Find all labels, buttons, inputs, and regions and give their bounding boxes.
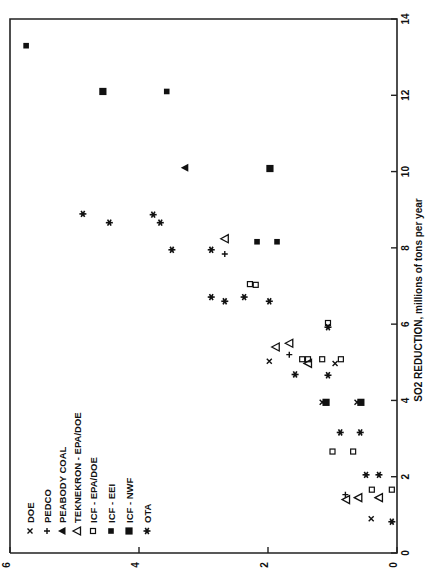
open-square-marker-icon bbox=[247, 282, 252, 287]
x-marker-icon bbox=[333, 361, 338, 366]
open-triangle-marker-icon bbox=[221, 235, 229, 243]
small-filled-square-marker-icon bbox=[164, 89, 170, 95]
y-tick-label: 6 bbox=[1, 562, 12, 568]
legend-label: DOE bbox=[25, 502, 36, 523]
x-tick-label: 6 bbox=[400, 321, 411, 327]
x-tick-label: 2 bbox=[400, 473, 411, 479]
legend-item: ICF - NWF bbox=[124, 477, 135, 534]
asterisk-marker-icon bbox=[375, 472, 382, 478]
filled-triangle-marker-icon bbox=[181, 164, 189, 172]
open-square-marker-icon bbox=[320, 357, 325, 362]
x-tick-label: 0 bbox=[400, 550, 411, 556]
asterisk-marker-icon bbox=[144, 528, 151, 534]
x-marker-icon bbox=[267, 359, 272, 364]
y-tick-label: 2 bbox=[259, 562, 270, 568]
open-square-marker-icon bbox=[389, 487, 394, 492]
+-marker-icon bbox=[222, 251, 228, 257]
x-marker-icon bbox=[369, 516, 374, 521]
small-filled-square-marker-icon bbox=[254, 239, 260, 245]
+-marker-icon bbox=[44, 528, 50, 534]
asterisk-marker-icon bbox=[79, 211, 86, 217]
legend-label: ICF - NWF bbox=[124, 477, 135, 523]
open-square-marker-icon bbox=[91, 529, 96, 534]
x-tick-label: 10 bbox=[400, 166, 411, 178]
plot-frame bbox=[10, 19, 397, 553]
legend-item: TEKNEKRON - EPA/DOE bbox=[72, 412, 83, 535]
large-filled-square-marker-icon bbox=[266, 165, 273, 172]
open-square-marker-icon bbox=[338, 357, 343, 362]
large-filled-square-marker-icon bbox=[125, 527, 132, 534]
legend-item: DOE bbox=[25, 502, 36, 533]
small-filled-square-marker-icon bbox=[274, 239, 280, 245]
asterisk-marker-icon bbox=[292, 371, 299, 377]
plot-border bbox=[10, 19, 397, 553]
x-tick-label: 14 bbox=[400, 13, 411, 25]
x-tick-label: 8 bbox=[400, 245, 411, 251]
legend-label: PEABODY COAL bbox=[57, 446, 68, 523]
asterisk-marker-icon bbox=[208, 247, 215, 253]
large-filled-square-marker-icon bbox=[99, 88, 106, 95]
series-icf-epa-doe bbox=[247, 282, 394, 493]
asterisk-marker-icon bbox=[357, 429, 364, 435]
y-tick-label: 4 bbox=[130, 562, 141, 568]
asterisk-marker-icon bbox=[106, 220, 113, 226]
legend-item: OTA bbox=[142, 504, 153, 535]
asterisk-marker-icon bbox=[266, 298, 273, 304]
asterisk-marker-icon bbox=[337, 429, 344, 435]
open-triangle-marker-icon bbox=[73, 527, 81, 535]
series-teknekron-epa-doe bbox=[221, 235, 383, 504]
legend-item: PEDCO bbox=[42, 489, 53, 534]
x-tick-label: 4 bbox=[400, 397, 411, 403]
open-square-marker-icon bbox=[369, 487, 374, 492]
asterisk-marker-icon bbox=[241, 294, 248, 300]
scatter-chart: 02468101214 0246 SO2 REDUCTION, millions… bbox=[0, 0, 432, 578]
y-axis-ticks: 0246 bbox=[1, 547, 399, 568]
y-tick-label: 0 bbox=[388, 562, 399, 568]
x-tick-label: 12 bbox=[400, 89, 411, 101]
large-filled-square-marker-icon bbox=[357, 399, 364, 406]
x-axis-ticks: 02468101214 bbox=[391, 13, 411, 556]
small-filled-square-marker-icon bbox=[108, 528, 114, 534]
small-filled-square-marker-icon bbox=[23, 43, 29, 49]
asterisk-marker-icon bbox=[150, 212, 157, 218]
open-square-marker-icon bbox=[351, 449, 356, 454]
asterisk-marker-icon bbox=[221, 298, 228, 304]
x-marker-icon bbox=[28, 529, 33, 534]
asterisk-marker-icon bbox=[324, 372, 331, 378]
series-doe bbox=[267, 359, 374, 522]
large-filled-square-marker-icon bbox=[322, 399, 329, 406]
asterisk-marker-icon bbox=[208, 294, 215, 300]
legend-item: PEABODY COAL bbox=[57, 446, 68, 535]
open-triangle-marker-icon bbox=[272, 343, 280, 351]
asterisk-marker-icon bbox=[157, 220, 164, 226]
legend-item: ICF - EPA/DOE bbox=[88, 457, 99, 533]
asterisk-marker-icon bbox=[388, 519, 395, 525]
series-peabody-coal bbox=[181, 164, 189, 172]
legend: DOEPEDCOPEABODY COALTEKNEKRON - EPA/DOEI… bbox=[25, 412, 153, 535]
+-marker-icon bbox=[286, 352, 292, 358]
open-square-marker-icon bbox=[253, 282, 258, 287]
legend-label: PEDCO bbox=[42, 489, 53, 523]
open-triangle-marker-icon bbox=[354, 494, 362, 502]
open-square-marker-icon bbox=[330, 449, 335, 454]
asterisk-marker-icon bbox=[363, 472, 370, 478]
filled-triangle-marker-icon bbox=[58, 527, 66, 535]
legend-label: OTA bbox=[142, 504, 153, 523]
legend-label: ICF - EEI bbox=[106, 484, 117, 523]
open-square-marker-icon bbox=[300, 357, 305, 362]
legend-item: ICF - EEI bbox=[106, 484, 117, 534]
open-triangle-marker-icon bbox=[375, 494, 383, 502]
legend-label: ICF - EPA/DOE bbox=[88, 457, 99, 523]
legend-label: TEKNEKRON - EPA/DOE bbox=[72, 412, 83, 523]
open-triangle-marker-icon bbox=[285, 339, 293, 347]
x-axis-label: SO2 REDUCTION, millions of tons per year bbox=[413, 198, 424, 401]
asterisk-marker-icon bbox=[168, 247, 175, 253]
